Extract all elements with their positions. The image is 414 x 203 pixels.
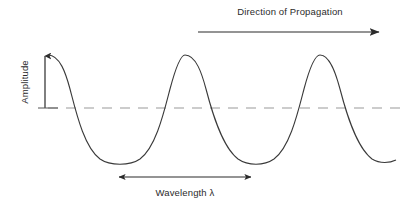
sine-wave-path: [48, 55, 396, 164]
wavelength-label: Wavelength λ: [155, 187, 214, 198]
wave-diagram-canvas: Direction of Propagation Amplitude Wavel…: [0, 0, 414, 203]
amplitude-label: Amplitude: [19, 60, 30, 104]
propagation-label: Direction of Propagation: [237, 6, 343, 17]
wave-diagram-svg: Direction of Propagation Amplitude Wavel…: [0, 0, 414, 203]
